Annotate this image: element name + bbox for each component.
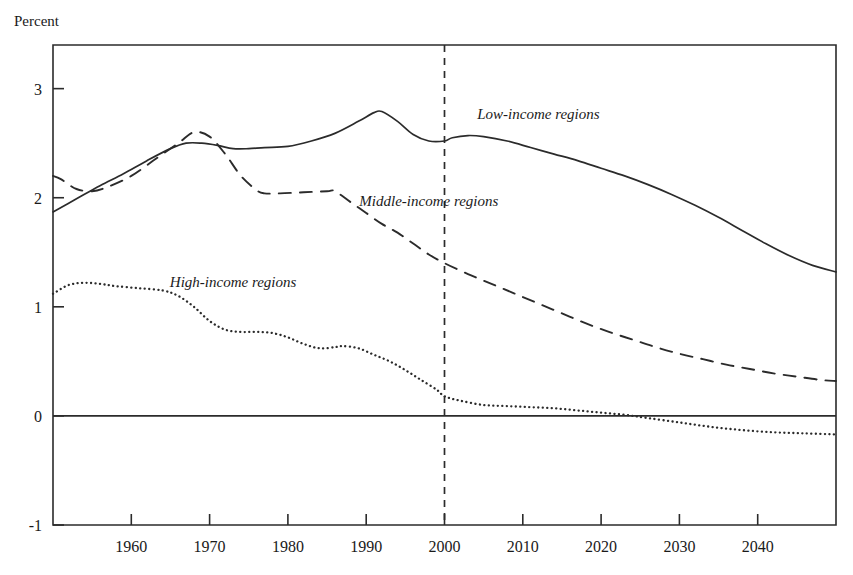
x-tick-label: 2040: [742, 538, 774, 555]
y-tick-label: 1: [34, 299, 42, 316]
y-tick-label: 2: [34, 190, 42, 207]
series-annotations: Low-income regionsMiddle-income regionsH…: [169, 106, 600, 290]
x-axis-ticks: 196019701980199020002010202020302040: [115, 514, 773, 555]
x-tick-label: 1980: [272, 538, 304, 555]
y-tick-label: -1: [29, 517, 42, 534]
x-tick-label: 1990: [350, 538, 382, 555]
series-label-high-income-regions: High-income regions: [169, 274, 297, 290]
x-tick-label: 2010: [507, 538, 539, 555]
x-tick-label: 2000: [429, 538, 461, 555]
y-axis-ticks: -10123: [29, 81, 64, 534]
series-label-low-income-regions: Low-income regions: [476, 106, 600, 122]
x-tick-label: 2030: [663, 538, 695, 555]
population-growth-line-chart: Percent -10123 1960197019801990200020102…: [0, 0, 853, 575]
y-tick-label: 3: [34, 81, 42, 98]
chart-figure: Percent -10123 1960197019801990200020102…: [0, 0, 853, 575]
x-tick-label: 1970: [194, 538, 226, 555]
x-tick-label: 2020: [585, 538, 617, 555]
series-label-middle-income-regions: Middle-income regions: [358, 193, 498, 209]
x-tick-label: 1960: [115, 538, 147, 555]
y-axis-title: Percent: [14, 13, 60, 29]
y-tick-label: 0: [34, 408, 42, 425]
